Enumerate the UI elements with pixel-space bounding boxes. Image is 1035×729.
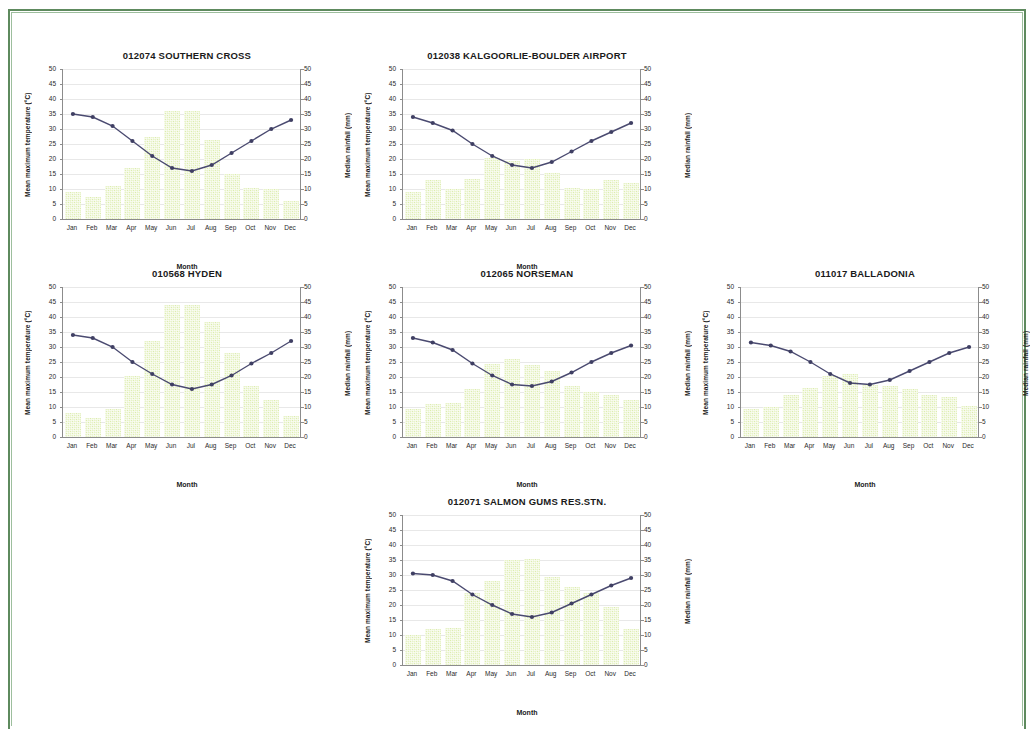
axis-tick	[301, 219, 304, 220]
tick-label: 45	[378, 81, 396, 87]
month-label: Apr	[121, 224, 141, 231]
rainfall-bar	[405, 192, 421, 219]
rainfall-bar	[263, 189, 279, 219]
tick-label: 40	[644, 314, 662, 320]
tick-label: 0	[304, 216, 322, 222]
month-label: Jul	[859, 442, 879, 449]
rainfall-bar	[902, 389, 918, 437]
month-label: May	[481, 442, 501, 449]
tick-label: 25	[304, 359, 322, 365]
plot-area-wrapper: Mean maximum temperature (°C)Median rain…	[362, 66, 692, 270]
axis-tick	[301, 99, 304, 100]
tick-label: 25	[644, 587, 662, 593]
tick-label: 40	[38, 96, 56, 102]
month-label: Jun	[161, 224, 181, 231]
tick-label: 5	[304, 201, 322, 207]
axis-tick	[301, 129, 304, 130]
rainfall-bar	[484, 364, 500, 438]
tick-label: 50	[378, 66, 396, 72]
axis-tick	[979, 332, 982, 333]
tick-label: 10	[304, 404, 322, 410]
rainfall-bar	[85, 197, 101, 220]
bar-cell	[261, 287, 281, 437]
bar-cell	[103, 69, 123, 219]
rainfall-bar	[524, 559, 540, 666]
tick-label: 50	[38, 284, 56, 290]
plot-area-wrapper: Mean maximum temperature (°C)Median rain…	[362, 512, 692, 716]
bar-cell	[83, 287, 103, 437]
month-label: Jun	[501, 442, 521, 449]
month-label: Sep	[561, 670, 581, 677]
y-axis-left-title: Mean maximum temperature (°C)	[364, 288, 371, 438]
bar-cell	[403, 287, 423, 437]
month-label: Aug	[541, 224, 561, 231]
axis-tick	[641, 302, 644, 303]
month-label: Mar	[780, 442, 800, 449]
rainfall-bar	[564, 188, 580, 220]
axis-tick	[979, 422, 982, 423]
bar-cell	[542, 69, 562, 219]
bar-cell	[860, 287, 880, 437]
axis-tick	[400, 665, 403, 666]
tick-label: 35	[644, 329, 662, 335]
y-axis-right-title: Median rainfall (mm)	[344, 288, 351, 438]
month-label: Feb	[760, 442, 780, 449]
rainfall-bars	[63, 69, 301, 219]
tick-label: 5	[644, 647, 662, 653]
tick-label: 15	[304, 171, 322, 177]
axis-tick	[400, 219, 403, 220]
bar-cell	[122, 287, 142, 437]
tick-label: 35	[304, 111, 322, 117]
axis-tick	[301, 377, 304, 378]
month-label: Dec	[620, 670, 640, 677]
rainfall-bar	[85, 418, 101, 438]
axis-tick	[979, 287, 982, 288]
tick-label: 35	[644, 557, 662, 563]
plot-area	[402, 69, 641, 220]
bar-cell	[462, 287, 482, 437]
tick-label: 45	[644, 299, 662, 305]
axis-tick	[301, 317, 304, 318]
tick-label: 40	[644, 96, 662, 102]
month-label: Jun	[501, 224, 521, 231]
rainfall-bar	[564, 386, 580, 437]
tick-label: 35	[644, 111, 662, 117]
chart-title: 010568 HYDEN	[22, 268, 352, 279]
plot-area-wrapper: Mean maximum temperature (°C)Median rain…	[22, 284, 352, 488]
rainfall-bar	[623, 183, 639, 219]
bar-cell	[261, 69, 281, 219]
tick-label: 10	[378, 186, 396, 192]
bar-cell	[562, 69, 582, 219]
tick-label: 25	[644, 141, 662, 147]
bar-cell	[761, 287, 781, 437]
rainfall-bar	[524, 365, 540, 437]
tick-label: 15	[644, 171, 662, 177]
axis-tick	[641, 620, 644, 621]
bar-cell	[142, 69, 162, 219]
month-label: Jan	[402, 224, 422, 231]
bar-cell	[522, 515, 542, 665]
x-axis-month-labels: JanFebMarAprMayJunJulAugSepOctNovDec	[402, 670, 640, 677]
month-label: May	[481, 670, 501, 677]
tick-label: 10	[982, 404, 1000, 410]
rainfall-bar	[882, 386, 898, 437]
tick-label: 15	[982, 389, 1000, 395]
rainfall-bar	[144, 137, 160, 220]
rainfall-bar	[484, 158, 500, 220]
axis-tick	[641, 129, 644, 130]
rainfall-bar	[763, 407, 779, 437]
month-label: Apr	[121, 442, 141, 449]
month-label: Sep	[561, 442, 581, 449]
month-label: Dec	[958, 442, 978, 449]
x-axis-month-labels: JanFebMarAprMayJunJulAugSepOctNovDec	[740, 442, 978, 449]
tick-label: 0	[644, 434, 662, 440]
month-label: Mar	[102, 442, 122, 449]
tick-label: 30	[716, 344, 734, 350]
bar-cell	[443, 515, 463, 665]
tick-label: 45	[378, 527, 396, 533]
month-label: Feb	[82, 442, 102, 449]
tick-label: 20	[644, 374, 662, 380]
bar-cell	[281, 69, 301, 219]
axis-tick	[301, 159, 304, 160]
rainfall-bar	[484, 581, 500, 665]
